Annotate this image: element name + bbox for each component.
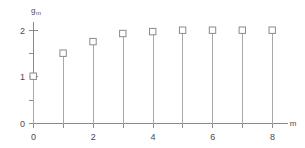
data-point-m7 xyxy=(239,27,245,33)
data-point-m5 xyxy=(179,27,185,33)
x-tick-label-0: 0 xyxy=(31,132,36,142)
y-tick-label-2: 2 xyxy=(20,26,25,36)
x-tick-label-8: 8 xyxy=(270,132,275,142)
x-tick-label-6: 6 xyxy=(210,132,215,142)
data-point-m8 xyxy=(269,27,275,33)
data-point-m3 xyxy=(120,30,126,36)
y-tick-label-0: 0 xyxy=(20,119,25,129)
data-point-m4 xyxy=(150,28,156,34)
stem-lines xyxy=(34,31,273,124)
y-tick-label-1: 1 xyxy=(20,72,25,82)
y-axis-label-subscript: m xyxy=(36,10,41,16)
x-tick-label-4: 4 xyxy=(150,132,155,142)
data-point-m0 xyxy=(30,73,36,79)
x-tick-label-2: 2 xyxy=(91,132,96,142)
chart-figure: 2 1 0 0 2 4 6 8 g m m xyxy=(0,0,305,148)
data-point-m2 xyxy=(90,38,96,44)
data-point-m1 xyxy=(60,50,66,56)
stem-plot: 2 1 0 0 2 4 6 8 g m m xyxy=(0,0,305,148)
x-axis-label: m xyxy=(290,119,297,128)
y-axis-label: g xyxy=(31,6,35,15)
data-point-m6 xyxy=(209,27,215,33)
